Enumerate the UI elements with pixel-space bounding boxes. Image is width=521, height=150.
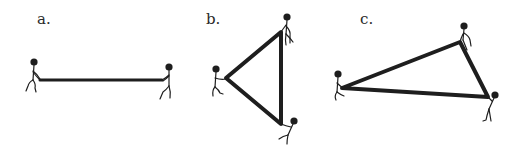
stick-figure-icon xyxy=(334,70,344,100)
stick-figure-icon xyxy=(212,65,226,96)
rope-triangle xyxy=(342,42,488,97)
panel-c xyxy=(334,22,498,121)
stick-figure-icon xyxy=(26,58,40,92)
figure-canvas: a. b. c. xyxy=(0,0,521,150)
rope-triangle xyxy=(226,32,281,124)
diagram-svg xyxy=(0,0,521,150)
panel-b xyxy=(212,13,297,144)
panel-a xyxy=(26,58,173,99)
